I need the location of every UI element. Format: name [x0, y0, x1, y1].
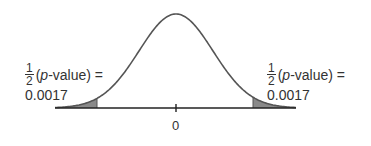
p-symbol: p: [282, 67, 290, 83]
fraction-denominator: 2: [25, 75, 34, 87]
p-value-text: (p-value) =: [36, 67, 103, 83]
left-tail-value: 0.0017: [25, 88, 103, 102]
center-tick-label: 0: [172, 118, 179, 133]
right-tail-value: 0.0017: [267, 88, 345, 102]
fraction-denominator: 2: [267, 75, 276, 87]
left-fraction: 1 2: [25, 62, 34, 87]
p-value-suffix: -value) =: [290, 67, 345, 83]
p-symbol: p: [40, 67, 48, 83]
right-fraction: 1 2: [267, 62, 276, 87]
right-tail-label: 1 2 (p-value) = 0.0017: [267, 62, 345, 102]
left-tail-label: 1 2 (p-value) = 0.0017: [25, 62, 103, 102]
p-value-suffix: -value) =: [48, 67, 103, 83]
p-value-text: (p-value) =: [278, 67, 345, 83]
